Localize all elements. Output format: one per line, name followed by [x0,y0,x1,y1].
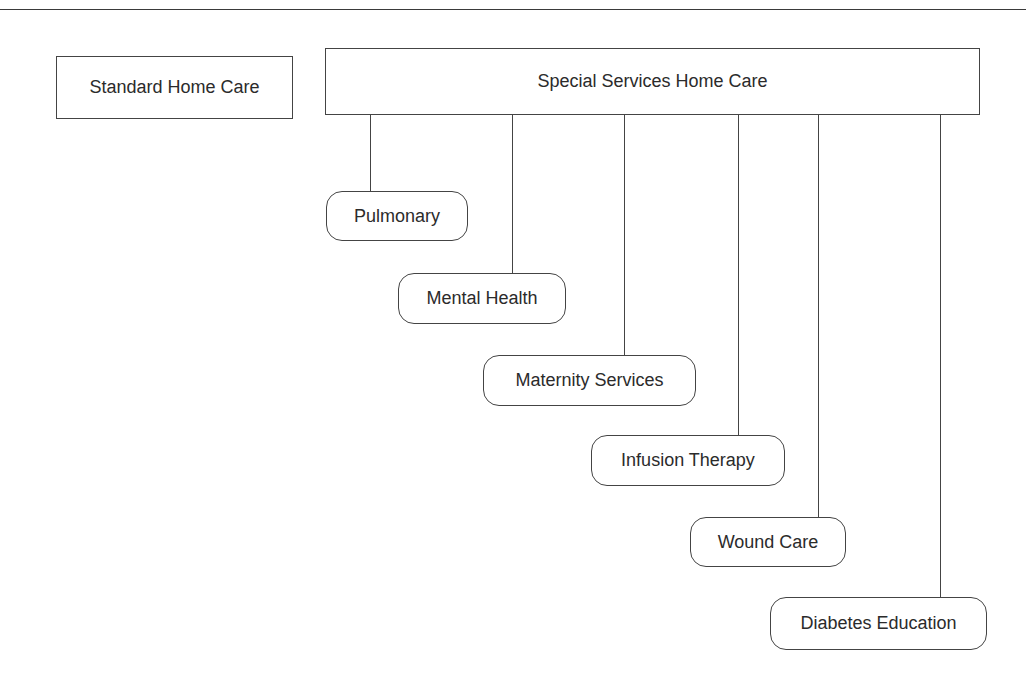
wound-care-node: Wound Care [690,517,846,567]
mental-health-label: Mental Health [426,288,537,309]
connector-maternity-services [624,114,625,356]
standard-home-care-box: Standard Home Care [56,56,293,119]
connector-pulmonary [370,114,371,192]
connector-mental-health [512,114,513,274]
standard-home-care-label: Standard Home Care [89,77,259,98]
connector-infusion-therapy [738,114,739,436]
maternity-services-node: Maternity Services [483,355,696,406]
top-rule-divider [0,9,1026,10]
pulmonary-label: Pulmonary [354,206,440,227]
connector-diabetes-education [940,114,941,598]
maternity-services-label: Maternity Services [515,370,663,391]
diabetes-education-label: Diabetes Education [800,613,956,634]
infusion-therapy-node: Infusion Therapy [591,435,785,486]
special-services-home-care-box: Special Services Home Care [325,48,980,115]
special-services-home-care-label: Special Services Home Care [537,71,767,92]
diabetes-education-node: Diabetes Education [770,597,987,650]
infusion-therapy-label: Infusion Therapy [621,450,755,471]
wound-care-label: Wound Care [718,532,819,553]
mental-health-node: Mental Health [398,273,566,324]
pulmonary-node: Pulmonary [326,191,468,241]
connector-wound-care [818,114,819,518]
